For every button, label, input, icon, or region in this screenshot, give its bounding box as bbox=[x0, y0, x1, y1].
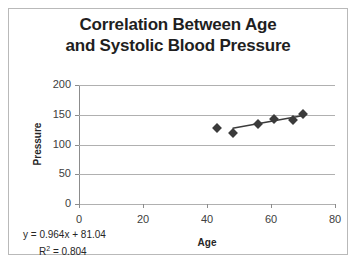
y-tick-label-0: 0 bbox=[31, 197, 71, 209]
x-tick-label-0: 0 bbox=[59, 213, 99, 225]
y-tick-label-200: 200 bbox=[31, 78, 71, 90]
trendline bbox=[79, 85, 335, 204]
chart-container: Correlation Between Age and Systolic Blo… bbox=[8, 8, 348, 255]
chart-title-line-1: Correlation Between Age bbox=[9, 14, 347, 35]
y-tick-label-100: 100 bbox=[31, 138, 71, 150]
x-tick-mark-80 bbox=[335, 204, 336, 208]
chart-title-line-2: and Systolic Blood Pressure bbox=[9, 35, 347, 56]
x-tick-label-20: 20 bbox=[123, 213, 163, 225]
x-tick-label-40: 40 bbox=[187, 213, 227, 225]
trendline-r-squared-text: R2 = 0.804 bbox=[23, 242, 106, 259]
chart-title: Correlation Between Age and Systolic Blo… bbox=[9, 14, 347, 56]
y-tick-label-50: 50 bbox=[31, 167, 71, 179]
x-tick-mark-40 bbox=[207, 204, 208, 208]
x-tick-label-60: 60 bbox=[251, 213, 291, 225]
x-tick-mark-0 bbox=[79, 204, 80, 208]
y-tick-label-150: 150 bbox=[31, 108, 71, 120]
x-tick-mark-60 bbox=[271, 204, 272, 208]
r2-suffix: = 0.804 bbox=[50, 246, 86, 257]
x-tick-label-80: 80 bbox=[315, 213, 355, 225]
trendline-equation-text: y = 0.964x + 81.04 bbox=[23, 228, 106, 242]
x-axis-title: Age bbox=[79, 237, 335, 248]
plot-area: 050100150200 020406080 bbox=[79, 85, 335, 204]
x-tick-mark-20 bbox=[143, 204, 144, 208]
trendline-equation: y = 0.964x + 81.04 R2 = 0.804 bbox=[23, 228, 106, 259]
